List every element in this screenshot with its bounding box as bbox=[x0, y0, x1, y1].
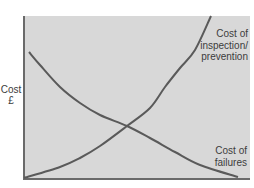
failures-label: Cost of failures bbox=[215, 145, 247, 168]
inspection-prevention-curve bbox=[24, 16, 211, 178]
label-line: Cost of bbox=[200, 28, 248, 40]
failures-curve bbox=[29, 52, 238, 177]
label-line: inspection/ bbox=[200, 40, 248, 52]
inspection-prevention-label: Cost of inspection/ prevention bbox=[200, 28, 248, 63]
y-axis-label: Cost £ bbox=[0, 84, 22, 106]
label-line: Cost of bbox=[215, 145, 247, 157]
label-line: failures bbox=[215, 157, 247, 169]
y-axis-label-line2: £ bbox=[0, 95, 22, 106]
y-axis-label-line1: Cost bbox=[0, 84, 22, 95]
label-line: prevention bbox=[200, 51, 248, 63]
